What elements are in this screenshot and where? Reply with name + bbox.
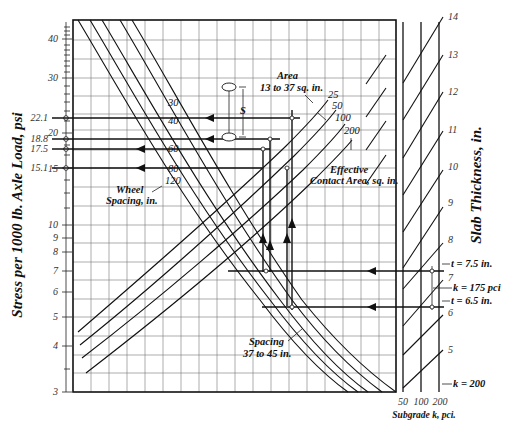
wheel-spacing-title-1: Wheel xyxy=(116,184,143,195)
stress-value-15-1: 15.1 xyxy=(31,162,49,173)
area-annotation: Area 13 to 37 sq. in. xyxy=(260,70,326,120)
slab-thickness-title: Slab Thickness, in. xyxy=(468,126,484,244)
main-grid xyxy=(73,20,396,392)
wheel-spacing-30: 30 xyxy=(167,97,179,108)
stress-value-22-1: 22.1 xyxy=(31,112,49,123)
k-200-note: k = 200 xyxy=(453,378,486,389)
slab-tick-8: 8 xyxy=(448,234,453,245)
y-tick-labels: 40 30 20 15 10 9 8 7 6 5 4 3 xyxy=(47,33,59,397)
slab-tick-9: 9 xyxy=(448,197,453,208)
k-tick-200: 200 xyxy=(433,396,448,407)
spacing-annotation: Spacing 37 to 45 in. xyxy=(242,329,302,359)
stress-value-17-5: 17.5 xyxy=(31,143,49,154)
slab-tick-12: 12 xyxy=(448,86,458,97)
slab-tick-14: 14 xyxy=(448,11,458,22)
area-note-line-2: 13 to 37 sq. in. xyxy=(260,82,323,93)
wheel-spacing-80: 80 xyxy=(168,163,179,174)
slab-tick-10: 10 xyxy=(448,161,458,172)
contact-area-200: 200 xyxy=(344,125,361,136)
contact-area-100: 100 xyxy=(335,112,352,123)
subgrade-k-labels: 50 100 200 Subgrade k, pci. xyxy=(392,396,455,420)
k-175-note: k = 175 pci xyxy=(453,282,501,293)
stress-nomograph: 40 30 20 15 10 9 8 7 6 5 4 3 22.1 18.8 1… xyxy=(0,0,507,425)
spacing-s-label: S xyxy=(240,105,246,116)
contact-area-50: 50 xyxy=(332,100,343,111)
thickness-6-5-note: t = 6.5 in. xyxy=(451,295,492,306)
y-tick-9: 9 xyxy=(53,232,58,243)
slab-tick-6: 6 xyxy=(448,307,453,318)
y-tick-6: 6 xyxy=(53,286,58,297)
k-tick-100: 100 xyxy=(414,396,429,407)
wheel-spacing-schematic: S xyxy=(222,83,246,141)
y-tick-4: 4 xyxy=(53,340,58,351)
thickness-7-5-note: t = 7.5 in. xyxy=(451,258,492,269)
y-tick-40: 40 xyxy=(48,33,58,44)
wheel-spacing-120: 120 xyxy=(165,175,182,186)
contact-area-25: 25 xyxy=(328,89,339,100)
y-axis xyxy=(62,22,72,392)
y-tick-7: 7 xyxy=(53,265,59,276)
example-annotations: t = 7.5 in. k = 175 pci t = 6.5 in. k = … xyxy=(433,258,501,389)
subgrade-k-title: Subgrade k, pci. xyxy=(392,410,455,420)
spacing-note-line-2: 37 to 45 in. xyxy=(242,348,291,359)
y-tick-8: 8 xyxy=(53,246,58,257)
y-tick-30: 30 xyxy=(47,72,58,83)
wheel-spacing-60: 60 xyxy=(168,143,179,154)
y-tick-3: 3 xyxy=(52,386,58,397)
contact-area-title-1: Effective xyxy=(329,164,369,175)
slab-tick-13: 13 xyxy=(448,49,458,60)
y-axis-title: Stress per 1000 lb. Axle Load, psi xyxy=(9,112,25,318)
area-note-line-1: Area xyxy=(276,70,298,81)
wheel-spacing-40: 40 xyxy=(168,115,179,126)
slab-tick-5: 5 xyxy=(448,344,453,355)
slab-tick-11: 11 xyxy=(448,124,457,135)
y-tick-10: 10 xyxy=(48,219,58,230)
stress-guide-lines xyxy=(52,114,444,311)
contact-area-curves xyxy=(78,100,352,373)
y-tick-5: 5 xyxy=(53,311,58,322)
wheel-spacing-title-2: Spacing, in. xyxy=(106,195,158,206)
spacing-note-line-1: Spacing xyxy=(249,336,284,347)
k-tick-50: 50 xyxy=(398,396,408,407)
contact-area-title-2: Contact Area, sq. in. xyxy=(310,175,398,186)
y-tick-20: 20 xyxy=(48,127,58,138)
